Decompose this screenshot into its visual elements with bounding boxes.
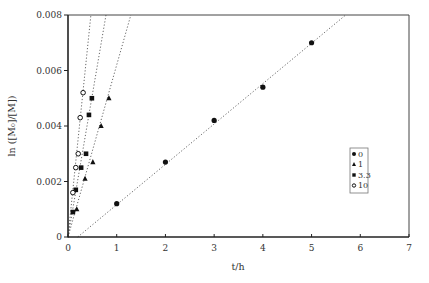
x-tick-label: 5 — [309, 243, 315, 253]
filled-triangle-marker — [82, 176, 87, 181]
filled-square-marker — [352, 173, 355, 176]
y-tick-label: 0.006 — [36, 66, 62, 76]
filled-circle-marker — [260, 85, 265, 90]
open-circle-marker — [76, 151, 81, 156]
chart-container: 0123456700.0020.0040.0060.008 t/h ln ([M… — [0, 0, 429, 283]
x-tick-label: 6 — [357, 243, 363, 253]
filled-triangle-marker — [90, 159, 95, 164]
y-axis-label: ln ([M₀]/[M]) — [6, 96, 17, 157]
y-tick-label: 0.002 — [36, 177, 62, 187]
x-tick-label: 1 — [114, 243, 120, 253]
legend-label: 0 — [358, 150, 363, 159]
open-circle-marker — [71, 190, 76, 195]
data-markers — [71, 40, 315, 214]
legend-label: 1 — [358, 160, 363, 169]
filled-circle-marker — [163, 159, 168, 164]
filled-square-marker — [87, 113, 92, 118]
filled-square-marker — [84, 151, 89, 156]
tick-labels: 0123456700.0020.0040.0060.008 — [36, 10, 412, 253]
x-tick-label: 7 — [406, 243, 412, 253]
y-tick-label: 0.004 — [36, 121, 62, 131]
filled-circle-marker — [212, 118, 217, 123]
legend-label: 10 — [358, 181, 368, 190]
filled-square-marker — [79, 165, 84, 170]
x-tick-label: 0 — [65, 243, 71, 253]
scatter-plot: 0123456700.0020.0040.0060.008 t/h ln ([M… — [0, 0, 429, 283]
x-tick-label: 3 — [211, 243, 217, 253]
legend-label: 3.3 — [358, 171, 371, 180]
x-tick-label: 2 — [163, 243, 169, 253]
filled-circle-marker — [309, 40, 314, 45]
x-tick-label: 4 — [260, 243, 266, 253]
fit-line-1 — [68, 15, 131, 237]
open-circle-marker — [81, 90, 86, 95]
open-circle-marker — [352, 184, 355, 187]
y-tick-label: 0 — [56, 232, 62, 242]
fit-lines — [68, 15, 346, 237]
filled-circle-marker — [114, 201, 119, 206]
open-circle-marker — [73, 165, 78, 170]
filled-circle-marker — [352, 152, 356, 156]
filled-square-marker — [90, 96, 95, 101]
y-tick-label: 0.008 — [36, 10, 62, 20]
open-circle-marker — [78, 115, 83, 120]
legend: 013.310 — [350, 148, 371, 193]
filled-square-marker — [71, 210, 76, 215]
x-axis-label: t/h — [231, 261, 244, 272]
